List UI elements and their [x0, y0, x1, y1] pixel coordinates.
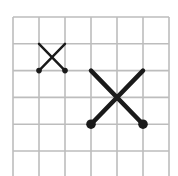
grid-lines — [13, 17, 169, 176]
endpoint-dot — [86, 119, 96, 129]
grid-diagram — [0, 0, 178, 176]
cross-shapes — [36, 44, 148, 129]
endpoint-dot — [36, 68, 42, 74]
endpoint-dot — [62, 68, 68, 74]
small-cross — [36, 44, 68, 74]
endpoint-dot — [138, 119, 148, 129]
